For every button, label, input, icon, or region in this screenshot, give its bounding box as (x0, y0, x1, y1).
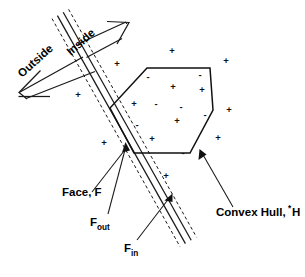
hull-exterior-point-plus: + (215, 132, 221, 143)
hull-interior-point-plus: + (174, 115, 180, 126)
face-label: Face, F (62, 186, 102, 198)
hull-exterior-point-plus: + (75, 89, 81, 100)
hull-interior-point-minus: - (135, 119, 138, 130)
leader-convex-hull (202, 153, 233, 207)
f-out-label: F out (90, 216, 110, 232)
diagram-svg: --++----++-+++++++++ Outside Inside Face… (0, 0, 305, 277)
hull-interior-point-plus: + (170, 81, 176, 92)
hull-interior-point-minus: - (154, 98, 157, 109)
hull-interior-point-plus: + (199, 84, 205, 95)
outside-label: Outside (15, 42, 55, 80)
leader-f-out (108, 146, 126, 214)
hull-interior-point-minus: - (198, 69, 201, 80)
f-out-base: F (90, 216, 97, 228)
hull-exterior-point-plus: + (114, 58, 120, 69)
f-in-base: F (124, 242, 131, 254)
leader-f-in (137, 197, 170, 240)
convex-hull-label: Convex Hull, H * (216, 204, 300, 218)
hull-interior-point-minus: - (203, 109, 206, 120)
hull-exterior-point-plus: + (226, 104, 232, 115)
hull-exterior-point-plus: + (101, 137, 107, 148)
point-marker-layer: --++----++-+++++++++ (75, 45, 232, 181)
hull-exterior-point-plus: + (223, 55, 229, 66)
hull-interior-point-minus: - (179, 101, 182, 112)
inside-arrow-shaft-lower (87, 39, 123, 58)
f-out-subscript: out (97, 223, 110, 232)
hull-exterior-point-plus: + (131, 98, 137, 109)
figure-canvas: --++----++-+++++++++ Outside Inside Face… (0, 0, 305, 277)
hull-exterior-point-plus: + (169, 45, 175, 56)
f-in-label: F in (124, 242, 138, 258)
hull-exterior-point-plus: + (163, 170, 169, 181)
hull-interior-point-minus: - (146, 71, 149, 82)
hull-interior-point-plus: + (149, 133, 155, 144)
f-in-subscript: in (131, 249, 138, 258)
hull-interior-point-minus: - (181, 147, 184, 158)
